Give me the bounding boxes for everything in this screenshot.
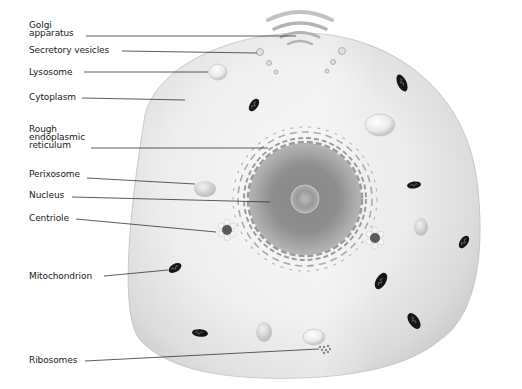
nucleolus (291, 185, 319, 213)
label-nucleus: Nucleus (29, 191, 64, 199)
label-secretory-vesicles: Secretory vesicles (29, 46, 109, 54)
perixosome-2 (414, 218, 428, 236)
lysosome-2 (365, 114, 395, 136)
label-cytoplasm: Cytoplasm (29, 93, 76, 101)
label-golgi-apparatus: Golgi apparatus (29, 21, 74, 37)
label-centriole: Centriole (29, 214, 69, 222)
vesicle (303, 329, 325, 345)
label-perixosome: Perixosome (29, 170, 80, 178)
label-lysosome: Lysosome (29, 68, 72, 76)
lysosome (209, 64, 227, 80)
perixosome (194, 181, 216, 197)
label-mitochondrion: Mitochondrion (29, 272, 92, 280)
label-rough-endoplasmic-reticulum: Rough endoplasmic reticulum (29, 125, 85, 149)
label-ribosomes: Ribosomes (29, 356, 77, 364)
perixosome-3 (256, 322, 272, 342)
cell-diagram (0, 0, 522, 389)
